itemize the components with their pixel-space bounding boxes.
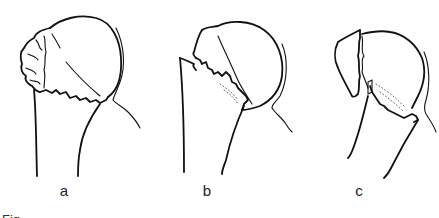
panel-b-label: b bbox=[197, 182, 217, 199]
panel-b-drawing bbox=[150, 0, 300, 180]
humerus-fracture-c-icon bbox=[300, 0, 439, 180]
humerus-fracture-b-icon bbox=[150, 0, 300, 180]
panel-a-drawing bbox=[0, 0, 150, 180]
panel-c-label: c bbox=[349, 182, 369, 199]
fracture-illustration-figure: a b bbox=[0, 0, 439, 218]
panel-a-label: a bbox=[54, 182, 74, 199]
humerus-fracture-a-icon bbox=[0, 0, 150, 180]
figure-caption-cropped: Fig. bbox=[0, 208, 439, 218]
figure-caption-text: Fig. bbox=[2, 212, 24, 218]
panel-c-drawing bbox=[300, 0, 439, 180]
